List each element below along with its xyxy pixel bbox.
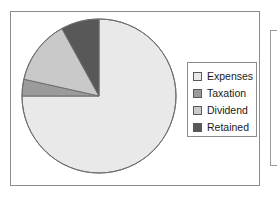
screenshot-canvas: Expenses Taxation Dividend Retained	[0, 0, 277, 198]
legend-label-dividend: Dividend	[207, 105, 248, 116]
legend-swatch-dividend	[193, 106, 202, 115]
adjacent-chart-panel	[270, 30, 277, 166]
pie-chart-panel: Expenses Taxation Dividend Retained	[10, 11, 260, 186]
legend-item-taxation[interactable]: Taxation	[193, 85, 256, 101]
legend-label-retained: Retained	[207, 122, 249, 133]
legend-item-retained[interactable]: Retained	[193, 119, 256, 135]
legend-swatch-taxation	[193, 89, 202, 98]
pie-slice-group	[22, 19, 176, 173]
chart-legend: Expenses Taxation Dividend Retained	[187, 62, 257, 137]
legend-swatch-retained	[193, 123, 202, 132]
pie-chart[interactable]	[21, 18, 177, 174]
pie-chart-svg	[21, 18, 177, 174]
legend-label-taxation: Taxation	[207, 88, 246, 99]
legend-item-expenses[interactable]: Expenses	[193, 68, 256, 84]
legend-swatch-expenses	[193, 72, 202, 81]
legend-item-dividend[interactable]: Dividend	[193, 102, 256, 118]
legend-label-expenses: Expenses	[207, 71, 253, 82]
